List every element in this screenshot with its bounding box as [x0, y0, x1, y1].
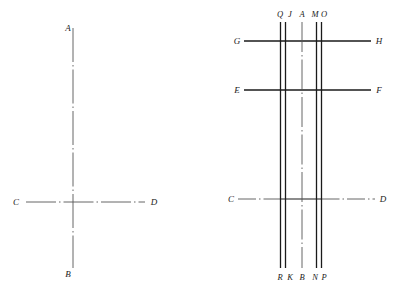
right-view-label-F: F	[375, 85, 382, 95]
right-view-label-H: H	[375, 36, 383, 46]
right-view-label-C: C	[228, 194, 235, 204]
technical-drawing-figure: A B C D Q J A M	[0, 0, 394, 294]
right-view-label-G: G	[234, 36, 241, 46]
right-view-bottom-label-R: R	[276, 272, 283, 282]
right-view-label-E: E	[233, 85, 240, 95]
drawing-canvas: A B C D Q J A M	[0, 0, 394, 294]
right-view-top-label-A: A	[298, 9, 305, 19]
right-view-top-label-M: M	[310, 9, 319, 19]
left-view-label-C: C	[13, 197, 20, 207]
right-view-bottom-label-B: B	[299, 272, 304, 282]
left-view-label-B: B	[65, 269, 71, 279]
canvas-background	[0, 0, 394, 294]
right-view-bottom-label-P: P	[320, 272, 326, 282]
left-view-label-A: A	[64, 23, 71, 33]
left-view-label-D: D	[150, 197, 158, 207]
right-view-label-D: D	[379, 194, 387, 204]
right-view-top-label-Q: Q	[277, 9, 283, 19]
right-view-top-label-O: O	[321, 9, 327, 19]
